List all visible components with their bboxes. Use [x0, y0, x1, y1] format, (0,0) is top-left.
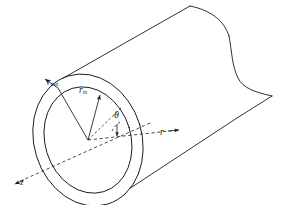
- label-z: z: [20, 178, 24, 187]
- figure-caption: [0, 200, 286, 205]
- tube-bottom-edge: [131, 118, 238, 188]
- r-axis-arrow: [168, 130, 179, 131]
- label-r-in-subscript: in: [83, 89, 88, 95]
- tube-cut-break-line: [229, 36, 272, 96]
- r-axis-line: [88, 130, 178, 140]
- r-in-arrow: [88, 95, 100, 140]
- tube-diagram: [0, 0, 286, 205]
- tube-top-right-edge: [190, 6, 229, 36]
- tube-top-edge: [63, 6, 191, 79]
- label-r-out: rout: [47, 78, 58, 88]
- label-r-in: rin: [79, 86, 87, 96]
- label-r: r: [160, 128, 164, 138]
- theta-arc: [112, 122, 120, 131]
- label-theta: θ: [114, 110, 119, 120]
- tube-cut-lower-edge: [237, 96, 272, 118]
- figure-root: rout rin θ r z: [0, 0, 286, 205]
- label-r-out-subscript: out: [51, 81, 59, 87]
